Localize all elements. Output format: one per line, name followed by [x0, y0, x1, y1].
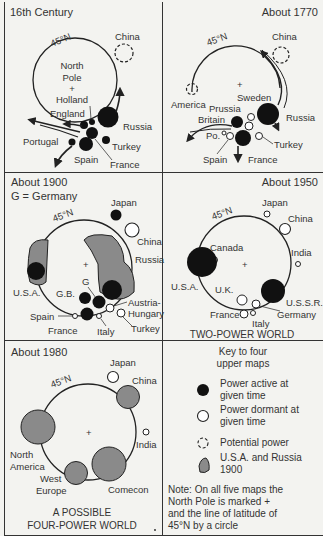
- caption-two-power-world: TWO-POWER WORLD: [190, 329, 294, 340]
- panel-16th-century: 16th Century 45°N China North Pole + Hol…: [10, 6, 153, 170]
- label-west: West: [40, 473, 62, 484]
- panel-title: About 1980: [11, 346, 67, 358]
- latitude-circle: [192, 46, 280, 92]
- label-india: India: [291, 247, 312, 258]
- japan-dormant-icon: [108, 372, 119, 383]
- spain-active-icon: [79, 137, 93, 151]
- label-britain: Britain: [198, 114, 225, 125]
- label-turkey: Turkey: [112, 141, 141, 152]
- russia-active-icon: [102, 280, 122, 300]
- note-line-3: and the line of latitude of: [168, 508, 277, 519]
- panel-title: About 1950: [262, 176, 318, 188]
- key-potential: Potential power: [220, 437, 290, 448]
- panel-title: About 1900: [11, 176, 67, 188]
- turkey-dormant-icon: [117, 309, 125, 317]
- italy-leader: [101, 319, 106, 326]
- label-pole: Pole: [62, 72, 81, 83]
- france-active-icon: [235, 130, 251, 146]
- label-gb: G.B.: [56, 288, 75, 299]
- france-dormant-icon: [240, 310, 248, 318]
- label-north: North: [60, 60, 83, 71]
- world-power-maps: 16th Century 45°N China North Pole + Hol…: [0, 0, 323, 536]
- panel-title: 16th Century: [10, 6, 73, 18]
- label-france: France: [210, 309, 240, 320]
- label-sweden: Sweden: [237, 92, 271, 103]
- panel-subtitle: G = Germany: [11, 190, 78, 202]
- china-dormant-icon: [125, 223, 139, 237]
- china-dormant-icon: [280, 224, 291, 235]
- prussia-dormant-icon: [245, 122, 253, 130]
- label-europe: Europe: [36, 485, 67, 496]
- turkey-dormant-icon: [256, 133, 263, 140]
- panel-1980: About 1980 45°N Japan China + India Nort…: [10, 346, 158, 531]
- label-usa: U.S.A.: [13, 287, 40, 298]
- usa-active-icon: [27, 262, 45, 280]
- label-japan: Japan: [110, 357, 136, 368]
- india-dormant-icon: [143, 429, 149, 435]
- key-title-2: upper maps: [217, 358, 270, 369]
- label-spain: Spain: [74, 154, 98, 165]
- label-hungary: Hungary: [128, 308, 164, 319]
- portugal-active-icon: [69, 139, 76, 146]
- italy-dormant-icon: [251, 311, 256, 316]
- label-india: India: [136, 439, 157, 450]
- key-active-2: given time: [220, 390, 266, 401]
- label-g: G: [82, 276, 89, 287]
- holland-leader: [90, 106, 91, 119]
- latitude-label: 45°N: [205, 30, 229, 48]
- britain-active-icon: [231, 116, 243, 128]
- label-france: France: [248, 154, 278, 165]
- spain-dormant-icon: [227, 133, 234, 140]
- russia-expansion-arrow: [116, 90, 120, 112]
- dot-mark: [154, 529, 156, 531]
- pole-marker: +: [69, 83, 75, 94]
- usa-active-icon: [187, 247, 217, 277]
- key-dormant-1: Power dormant at: [220, 404, 299, 415]
- label-america: America: [10, 461, 46, 472]
- label-america: America: [171, 99, 207, 110]
- label-prussia: Prussia: [209, 103, 241, 114]
- label-italy: Italy: [97, 326, 115, 337]
- label-portugal: Portugal: [23, 136, 58, 147]
- active-key-icon: [197, 384, 209, 396]
- key-active-1: Power active at: [220, 378, 289, 389]
- latitude-label: 45°N: [210, 204, 234, 222]
- label-turkey: Turkey: [131, 323, 160, 334]
- portugal-dormant-icon: [222, 131, 226, 135]
- note-line-2: North Pole is marked +: [168, 496, 270, 507]
- key-usa-russia-2: 1900: [220, 464, 243, 475]
- label-canada: Canada: [210, 242, 244, 253]
- panel-title: About 1770: [262, 6, 318, 18]
- germany-dormant-icon: [252, 300, 260, 308]
- note-line-1: Note: On all five maps the: [168, 484, 283, 495]
- russia-active-icon: [98, 107, 119, 128]
- label-north: North: [10, 449, 33, 460]
- label-china: China: [272, 31, 298, 42]
- spain-leader: [217, 140, 228, 154]
- england-arrow: [65, 124, 82, 126]
- label-japan: Japan: [262, 197, 288, 208]
- label-china: China: [137, 236, 163, 247]
- china-potential-icon: [115, 44, 133, 62]
- label-italy: Italy: [252, 318, 270, 329]
- key-dormant-2: given time: [220, 416, 266, 427]
- holland-active-icon: [89, 119, 95, 125]
- comecon-power-icon: [92, 447, 126, 481]
- label-spain: Spain: [30, 311, 54, 322]
- label-china: China: [132, 375, 158, 386]
- india-dormant-icon: [296, 262, 301, 267]
- caption-line-2: FOUR-POWER WORLD: [27, 520, 136, 531]
- germany-active-icon: [93, 296, 106, 309]
- pole-marker: +: [83, 259, 89, 270]
- spain-dormant-icon: [73, 314, 78, 319]
- key-usa-russia-1: U.S.A. and Russia: [220, 452, 302, 463]
- japan-active-icon: [111, 210, 122, 221]
- italy-dormant-icon: [97, 314, 102, 319]
- label-po: Po.: [206, 130, 220, 141]
- label-russia: Russia: [123, 121, 153, 132]
- label-germany: Germany: [277, 309, 316, 320]
- southward-arrow: [56, 146, 72, 165]
- label-austria: Austria-: [128, 297, 161, 308]
- russia-southward-arrow: [275, 123, 278, 129]
- west-europe-power-icon: [65, 462, 88, 485]
